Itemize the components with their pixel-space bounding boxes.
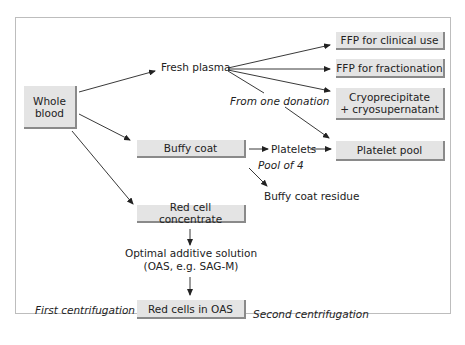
node-ffp-fractionation-label: FFP for fractionation bbox=[336, 62, 442, 74]
node-buffy-coat-residue: Buffy coat residue bbox=[264, 190, 359, 203]
node-oas: Optimal additive solution (OAS, e.g. SAG… bbox=[120, 247, 262, 273]
annotation-pool-of-4: Pool of 4 bbox=[258, 159, 304, 172]
node-platelet-pool: Platelet pool bbox=[336, 141, 445, 161]
node-cryo-line2: + cryosupernatant bbox=[340, 103, 439, 115]
node-ffp-clinical: FFP for clinical use bbox=[336, 32, 445, 50]
annotation-second-centrifugation: Second centrifugation bbox=[253, 308, 369, 321]
node-buffy-coat: Buffy coat bbox=[137, 140, 246, 158]
node-whole-blood: Whole blood bbox=[24, 86, 77, 129]
flow-arrows bbox=[0, 0, 465, 345]
node-platelets: Platelets bbox=[271, 143, 316, 156]
node-fresh-plasma: Fresh plasma bbox=[161, 61, 230, 74]
node-ffp-clinical-label: FFP for clinical use bbox=[341, 34, 439, 46]
node-red-cell-concentrate-label: Red cell concentrate bbox=[137, 201, 244, 225]
arrow-whole-to-redcell bbox=[72, 131, 133, 204]
arrow-whole-to-plasma bbox=[79, 71, 155, 92]
node-oas-line1: Optimal additive solution bbox=[120, 247, 262, 260]
node-ffp-fractionation: FFP for fractionation bbox=[336, 59, 445, 78]
node-cryo-line1: Cryoprecipitate bbox=[349, 91, 430, 103]
annotation-from-one-donation: From one donation bbox=[230, 95, 330, 108]
arrow-whole-to-buffy bbox=[79, 114, 130, 140]
node-oas-line2: (OAS, e.g. SAG-M) bbox=[120, 260, 262, 273]
node-cryoprecipitate: Cryoprecipitate + cryosupernatant bbox=[336, 88, 445, 120]
node-red-cells-in-oas: Red cells in OAS bbox=[137, 300, 246, 319]
node-whole-blood-label: Whole blood bbox=[30, 95, 70, 119]
annotation-first-centrifugation: First centrifugation bbox=[35, 304, 135, 317]
node-red-cells-in-oas-label: Red cells in OAS bbox=[148, 303, 233, 315]
arrow-plasma-to-platelet-pool bbox=[285, 107, 329, 138]
arrow-plasma-to-ffp-clinical bbox=[228, 45, 330, 68]
node-buffy-coat-label: Buffy coat bbox=[164, 142, 217, 154]
node-platelet-pool-label: Platelet pool bbox=[357, 144, 423, 156]
node-red-cell-concentrate: Red cell concentrate bbox=[137, 205, 246, 223]
